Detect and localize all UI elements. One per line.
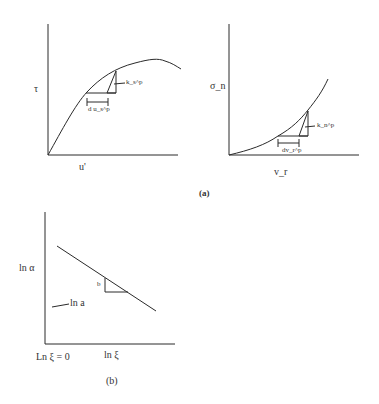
chart-loglog xyxy=(45,212,175,344)
chart-normal xyxy=(229,24,359,155)
chart-shear xyxy=(48,24,181,155)
normal-stiffness-label: k_n^p xyxy=(317,122,334,129)
loglog-slope-label: b xyxy=(97,281,101,288)
loglog-y-label: ln α xyxy=(19,263,35,273)
panel-a-caption: (a) xyxy=(199,189,210,198)
loglog-origin-label: Ln ξ = 0 xyxy=(36,352,70,362)
intercept-arrow xyxy=(52,304,69,307)
normal-x-label: v_r xyxy=(274,167,287,177)
normal-increment-label: dv_r^p xyxy=(282,147,302,154)
tangent-triangle xyxy=(86,71,116,93)
shear-increment-label: d u_s^p xyxy=(88,106,110,113)
normal-y-label: σ_n xyxy=(210,81,225,91)
loglog-intercept-label: ln a xyxy=(70,298,85,308)
shear-stiffness-label: k_s^p xyxy=(126,79,143,86)
stiffness-arrow xyxy=(305,126,315,127)
panel-b-caption: (b) xyxy=(106,376,118,386)
loglog-x-label: ln ξ xyxy=(104,350,119,360)
figure-canvas xyxy=(0,0,379,404)
shear-x-label: u' xyxy=(79,162,86,172)
shear-y-label: τ xyxy=(34,84,38,94)
